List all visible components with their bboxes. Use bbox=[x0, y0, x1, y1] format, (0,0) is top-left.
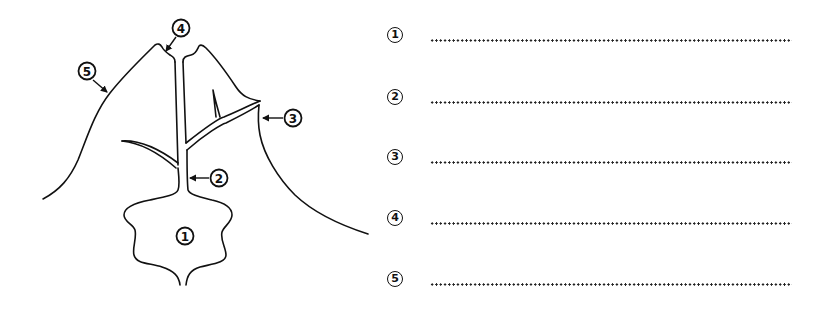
answer-field-3[interactable] bbox=[430, 161, 792, 164]
answer-row-2: 2 bbox=[384, 89, 804, 129]
callout-3-label: 3 bbox=[289, 112, 297, 126]
volcano-left-slope bbox=[43, 44, 175, 199]
side-vent-upper bbox=[186, 101, 260, 143]
callout-3: 3 bbox=[263, 110, 302, 127]
answer-number-2-badge: 2 bbox=[387, 89, 403, 105]
callout-4-arrow-icon bbox=[166, 37, 176, 51]
side-vent-lower bbox=[187, 105, 259, 150]
main-vent-right-wall bbox=[183, 62, 186, 143]
answer-field-2[interactable] bbox=[430, 101, 792, 104]
left-sill-lower bbox=[122, 141, 176, 168]
answer-field-5[interactable] bbox=[430, 283, 792, 286]
main-vent-lower-left bbox=[124, 168, 180, 285]
callout-2-label: 2 bbox=[215, 172, 223, 186]
volcano-right-slope bbox=[258, 105, 368, 234]
answer-row-4: 4 bbox=[384, 210, 804, 250]
answer-number-4-badge: 4 bbox=[387, 210, 403, 226]
callout-5-arrow-icon bbox=[93, 80, 107, 92]
answer-row-1: 1 bbox=[384, 27, 804, 67]
answer-field-1[interactable] bbox=[430, 39, 792, 42]
answer-number-5-badge: 5 bbox=[387, 271, 403, 287]
callout-5-label: 5 bbox=[83, 65, 91, 79]
answer-number-1-badge: 1 bbox=[387, 27, 403, 43]
crater-right-rim bbox=[183, 45, 260, 101]
main-vent-lower-right bbox=[186, 150, 232, 285]
answer-number-3-badge: 3 bbox=[387, 149, 403, 165]
answer-row-3: 3 bbox=[384, 149, 804, 189]
answer-row-5: 5 bbox=[384, 271, 804, 311]
left-sill-upper bbox=[122, 141, 178, 163]
callout-4: 4 bbox=[166, 20, 190, 52]
callout-4-label: 4 bbox=[177, 22, 185, 36]
callout-2: 2 bbox=[190, 170, 228, 187]
main-vent-left-wall bbox=[175, 62, 178, 165]
callout-1-label: 1 bbox=[181, 230, 189, 244]
callout-5: 5 bbox=[79, 63, 108, 93]
small-dike bbox=[213, 90, 220, 117]
callout-1: 1 bbox=[177, 228, 194, 245]
answer-field-4[interactable] bbox=[430, 222, 792, 225]
